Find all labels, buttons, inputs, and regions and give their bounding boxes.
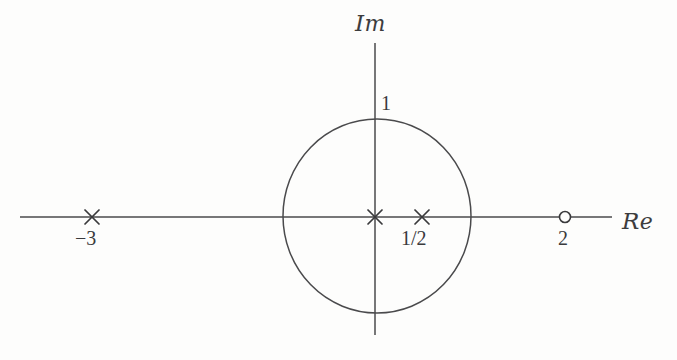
imaginary-axis-label-rest: m — [365, 11, 386, 36]
zero-marker-two — [560, 212, 571, 223]
complex-plane-plot — [0, 0, 677, 360]
real-axis-label: Re — [622, 210, 653, 233]
unit-circle-label: 1 — [381, 93, 391, 113]
real-axis-label-cap: R — [622, 208, 640, 234]
zero-label-two: 2 — [558, 228, 568, 248]
pole-zero-figure: Im Re 1 −3 1/2 2 — [0, 0, 677, 360]
pole-label-neg3: −3 — [75, 228, 96, 248]
pole-label-half: 1/2 — [401, 228, 427, 248]
imaginary-axis-label-cap: I — [355, 10, 365, 36]
real-axis-label-rest: e — [640, 209, 654, 234]
imaginary-axis-label: Im — [355, 12, 386, 35]
